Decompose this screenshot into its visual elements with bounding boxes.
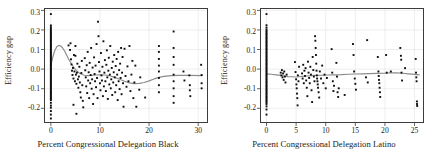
x-tick-label: 15 <box>352 126 360 135</box>
x-tick-labels-right: 0 5 10 15 20 25 <box>216 0 432 162</box>
x-tick-labels-left: 0 10 20 30 <box>0 0 216 162</box>
x-tick-label: 20 <box>381 126 389 135</box>
x-tick-label: 30 <box>194 126 202 135</box>
panel-black: Efficiency gap 0.3 0.2 0.1 0.0 -0.1 -0.2… <box>0 0 216 162</box>
figure-scatter-pair: Efficiency gap 0.3 0.2 0.1 0.0 -0.1 -0.2… <box>0 0 432 162</box>
x-tick-label: 20 <box>145 126 153 135</box>
x-axis-label-right: Percent Congressional Delegation Latino <box>216 139 432 149</box>
x-tick-label: 0 <box>265 126 269 135</box>
x-tick-label: 10 <box>96 126 104 135</box>
x-tick-label: 5 <box>294 126 298 135</box>
x-axis-label-left: Percent Congressional Delegation Black <box>0 139 216 149</box>
x-tick-label: 10 <box>322 126 330 135</box>
panel-latino: Efficiency gap 0.3 0.2 0.1 0.0 -0.1 -0.2… <box>216 0 432 162</box>
x-tick-label: 0 <box>49 126 53 135</box>
x-tick-label: 25 <box>411 126 419 135</box>
